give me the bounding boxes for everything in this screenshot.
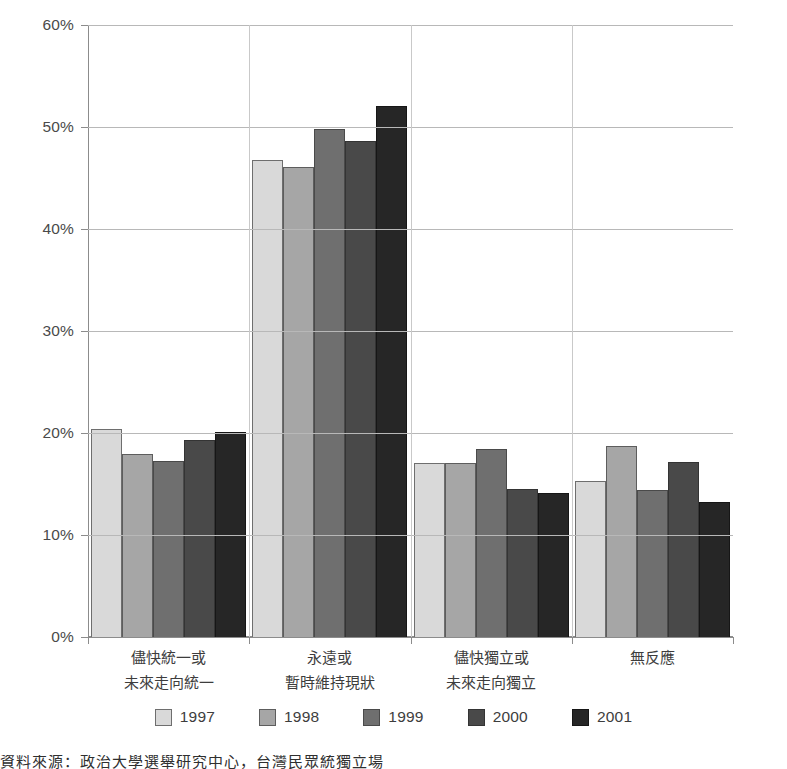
y-axis-tick — [81, 433, 88, 434]
grouped-bar-chart: 0%10%20%30%40%50%60% 儘快統一或未來走向統一永遠或暫時維持現… — [0, 0, 787, 769]
y-axis-tick-label: 20% — [42, 424, 74, 442]
y-axis-tick-label: 0% — [51, 628, 74, 646]
chart-legend: 19971998199920002001 — [0, 708, 787, 726]
bar[interactable] — [184, 440, 215, 637]
legend-item[interactable]: 2001 — [572, 708, 632, 726]
page-footer-text: 資料來源：政治大學選舉研究中心，台灣民眾統獨立場 — [0, 755, 787, 769]
legend-item[interactable]: 1998 — [259, 708, 319, 726]
bar[interactable] — [314, 129, 345, 637]
category-axis-labels: 儘快統一或未來走向統一永遠或暫時維持現狀儘快獨立或未來走向獨立無反應 — [88, 645, 733, 701]
category-label-line: 儘快統一或 — [88, 645, 249, 670]
category-label: 儘快獨立或未來走向獨立 — [411, 645, 572, 701]
y-axis-tick-label: 40% — [42, 220, 74, 238]
page-footer-text-line: 資料來源：政治大學選舉研究中心，台灣民眾統獨立場 — [0, 755, 787, 769]
group-separator — [572, 25, 573, 637]
category-axis-tick — [411, 637, 412, 644]
bar[interactable] — [606, 446, 637, 637]
legend-item[interactable]: 1999 — [363, 708, 423, 726]
legend-swatch-icon — [155, 709, 172, 726]
y-axis-tick — [81, 637, 88, 638]
bar[interactable] — [699, 502, 730, 637]
bar[interactable] — [252, 160, 283, 637]
bar[interactable] — [122, 454, 153, 637]
bar[interactable] — [345, 141, 376, 637]
legend-item[interactable]: 1997 — [155, 708, 215, 726]
group-separator — [249, 25, 250, 637]
bar[interactable] — [376, 106, 407, 637]
y-axis-tick — [81, 127, 88, 128]
y-axis-tick — [81, 535, 88, 536]
legend-label: 1999 — [388, 708, 423, 726]
bar[interactable] — [575, 481, 606, 637]
category-label: 無反應 — [572, 645, 733, 701]
category-label-line: 儘快獨立或 — [411, 645, 572, 670]
category-label: 永遠或暫時維持現狀 — [249, 645, 410, 701]
bar[interactable] — [91, 429, 122, 637]
legend-label: 2000 — [493, 708, 528, 726]
category-label-line: 永遠或 — [249, 645, 410, 670]
legend-item[interactable]: 2000 — [468, 708, 528, 726]
legend-label: 1998 — [284, 708, 319, 726]
bar[interactable] — [414, 463, 445, 637]
group-separator — [411, 25, 412, 637]
bar[interactable] — [538, 493, 569, 637]
y-axis-tick-label: 50% — [42, 118, 74, 136]
plot-area — [88, 25, 733, 637]
legend-label: 1997 — [180, 708, 215, 726]
bar[interactable] — [283, 167, 314, 637]
category-label-line: 未來走向統一 — [88, 670, 249, 695]
bar[interactable] — [445, 463, 476, 637]
category-axis-tick — [88, 637, 89, 644]
y-axis-tick-label: 10% — [42, 526, 74, 544]
legend-swatch-icon — [572, 709, 589, 726]
y-axis: 0%10%20%30%40%50%60% — [0, 25, 74, 637]
legend-swatch-icon — [468, 709, 485, 726]
legend-swatch-icon — [363, 709, 380, 726]
category-axis-tick — [733, 637, 734, 644]
legend-label: 2001 — [597, 708, 632, 726]
y-axis-tick — [81, 229, 88, 230]
bar[interactable] — [637, 490, 668, 637]
category-label-line: 未來走向獨立 — [411, 670, 572, 695]
bar[interactable] — [153, 461, 184, 637]
y-axis-tick — [81, 331, 88, 332]
bar[interactable] — [476, 449, 507, 637]
bar[interactable] — [507, 489, 538, 637]
legend-swatch-icon — [259, 709, 276, 726]
category-label: 儘快統一或未來走向統一 — [88, 645, 249, 701]
y-axis-tick — [81, 25, 88, 26]
y-axis-tick-label: 30% — [42, 322, 74, 340]
category-axis-tick — [249, 637, 250, 644]
bar[interactable] — [668, 462, 699, 637]
category-label-line: 無反應 — [572, 645, 733, 670]
category-label-line: 暫時維持現狀 — [249, 670, 410, 695]
y-axis-tick-label: 60% — [42, 16, 74, 34]
category-axis-tick — [572, 637, 573, 644]
